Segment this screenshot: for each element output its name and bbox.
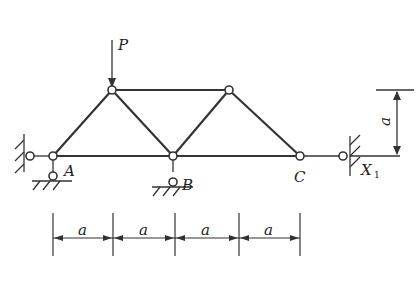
node-label-b: B [181,176,193,194]
span-label-3: a [201,221,210,239]
span-dimensions [53,213,300,256]
truss-members [53,90,300,156]
dim-arrow-up-icon [393,91,401,100]
span-label-1: a [78,221,87,239]
dim-arrow-down-icon [393,146,401,155]
truss-svg: P A B C X 1 a a a a a [0,0,417,291]
supports [15,40,414,196]
node-label-c: C [294,168,306,186]
truss-diagram: P A B C X 1 a a a a a [0,0,417,291]
height-label: a [376,117,394,126]
span-label-4: a [264,221,273,239]
redundant-label: X [360,161,373,179]
node-label-a: A [62,162,75,180]
load-label: P [117,36,129,54]
span-label-2: a [139,221,148,239]
redundant-subscript: 1 [374,170,380,180]
